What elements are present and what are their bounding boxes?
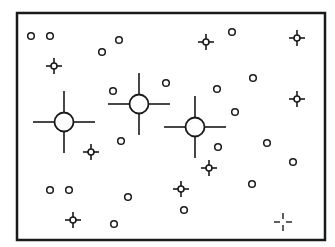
small-circle-star: [111, 221, 118, 228]
small-cross-star-icon: [83, 144, 99, 160]
small-circle-star: [290, 159, 297, 166]
large-cross-star-icon: [33, 91, 95, 153]
small-circle-star: [215, 144, 222, 151]
small-circle-star: [125, 194, 132, 201]
small-circle-star: [214, 86, 221, 93]
small-cross-star-icon: [289, 30, 305, 46]
small-circle-star: [47, 187, 54, 194]
broken-crosses-group: [274, 213, 292, 231]
small-cross-star-icon: [201, 160, 217, 176]
small-circle-star: [110, 88, 117, 95]
small-circle-star: [66, 187, 73, 194]
small-cross-star-icon: [198, 34, 214, 50]
small-circle-star: [28, 33, 35, 40]
small-circle-star: [99, 49, 106, 56]
small-circle-star: [47, 33, 54, 40]
large-stars-group: [33, 73, 226, 158]
large-cross-star-icon: [108, 73, 170, 135]
small-cross-star-icon: [289, 91, 305, 107]
small-circle-star: [181, 207, 188, 214]
small-circle-star: [250, 75, 257, 82]
small-circle-star: [229, 29, 236, 36]
small-circle-star: [163, 80, 170, 87]
small-circle-star: [264, 140, 271, 147]
broken-cross-marker-icon: [274, 213, 292, 231]
small-cross-star-icon: [46, 58, 62, 74]
small-circle-star: [232, 109, 239, 116]
small-cross-star-icon: [65, 212, 81, 228]
small-circle-star: [118, 138, 125, 145]
star-field-diagram: [0, 0, 335, 247]
small-circle-star: [116, 37, 123, 44]
small-cross-star-icon: [173, 181, 189, 197]
small-stars-group: [46, 30, 305, 228]
small-circle-star: [249, 181, 256, 188]
